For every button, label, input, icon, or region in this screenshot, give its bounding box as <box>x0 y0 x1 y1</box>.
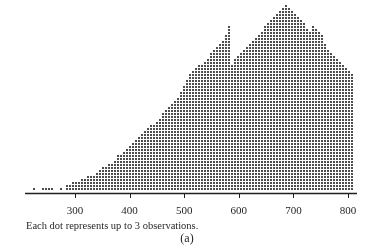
x-tick-label-300: 300 <box>67 204 84 216</box>
x-tick-label-500: 500 <box>176 204 193 216</box>
x-tick-label-700: 700 <box>285 204 302 216</box>
x-tick-label-800: 800 <box>340 204 357 216</box>
dot-plot-note: Each dot represents up to 3 observations… <box>26 220 198 231</box>
x-tick-label-400: 400 <box>121 204 138 216</box>
x-tick-label-600: 600 <box>231 204 248 216</box>
figure-caption: (a) <box>180 231 193 246</box>
